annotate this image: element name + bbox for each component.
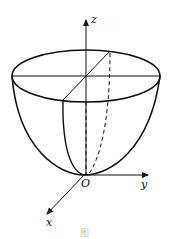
origin-label: O <box>81 178 90 189</box>
front-meridian <box>63 100 84 175</box>
x-axis-label: x <box>46 217 52 228</box>
hidden-meridian-dashed <box>88 53 110 175</box>
figure-caption: 图 <box>0 229 169 238</box>
x-axis <box>47 175 84 214</box>
paraboloid-diagram <box>0 0 169 239</box>
z-axis-label: z <box>91 14 97 25</box>
paraboloid-figure: z y x O 图 <box>0 0 169 239</box>
y-axis-label: y <box>141 179 147 190</box>
